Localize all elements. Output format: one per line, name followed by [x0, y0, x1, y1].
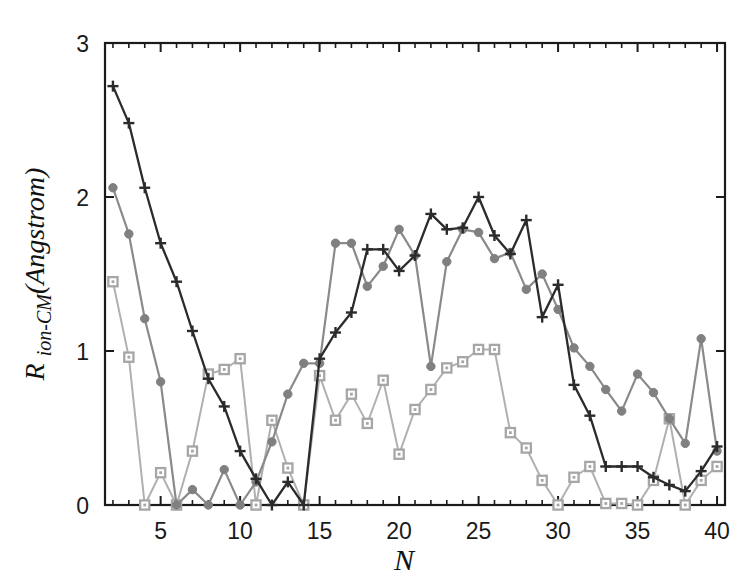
series-light-square-marker [553, 500, 562, 509]
series-mid-circle-marker [284, 390, 292, 398]
y-tick-label: 2 [76, 185, 89, 211]
series-light-square-marker [697, 476, 706, 485]
series-light-square-marker [363, 419, 372, 428]
series-light-square-marker [236, 354, 245, 363]
x-tick-label: 35 [625, 518, 651, 544]
x-tick-label: 15 [307, 518, 333, 544]
series-light-square-marker [490, 345, 499, 354]
series-mid-circle-marker [172, 501, 180, 509]
x-tick-label: 40 [704, 518, 730, 544]
series-mid-circle-marker [141, 314, 149, 322]
series-mid-circle-marker [236, 501, 244, 509]
series-light-square-marker [601, 499, 610, 508]
series-mid-circle-marker [681, 439, 689, 447]
series-mid-circle-marker [602, 385, 610, 393]
series-mid-circle-marker [427, 362, 435, 370]
scatter-line-plot: 510152025303540 0123 N R ion-CM(Angstrom… [0, 0, 752, 587]
series-light-square-marker [188, 447, 197, 456]
series-mid-circle-marker [490, 254, 498, 262]
series-light-square-marker [124, 353, 133, 362]
series-mid-circle-marker [156, 378, 164, 386]
y-tick-label: 1 [76, 339, 89, 365]
y-tick-label: 0 [76, 493, 89, 519]
series-mid-circle-marker [649, 388, 657, 396]
series-light-square-marker [538, 476, 547, 485]
series-mid-circle-marker [570, 344, 578, 352]
series-light-square-marker [140, 500, 149, 509]
series-mid-circle-marker [363, 282, 371, 290]
series-mid-circle-marker [522, 285, 530, 293]
series-light-square-marker [617, 499, 626, 508]
figure-container: 510152025303540 0123 N R ion-CM(Angstrom… [0, 0, 752, 587]
series-mid-circle-marker [586, 362, 594, 370]
series-light-square-marker [712, 462, 721, 471]
series-light-square-marker [395, 450, 404, 459]
series-light-square-marker [267, 416, 276, 425]
series-light-square-marker [283, 463, 292, 472]
x-tick-label: 25 [466, 518, 492, 544]
series-light-square-marker [251, 500, 260, 509]
x-axis-title: N [393, 543, 416, 576]
x-tick-label: 5 [154, 518, 167, 544]
series-light-square-marker [506, 428, 515, 437]
series-light-square-marker [108, 277, 117, 286]
series-light-square-marker [458, 357, 467, 366]
series-mid-circle-marker [331, 239, 339, 247]
series-light-square-marker [442, 363, 451, 372]
series-mid-circle-marker [220, 465, 228, 473]
series-mid-circle-marker [109, 184, 117, 192]
series-mid-circle-marker [395, 225, 403, 233]
series-mid-circle-marker [443, 257, 451, 265]
series-mid-circle-marker [665, 415, 673, 423]
x-axis-title-label: N [393, 543, 416, 576]
x-tick-label: 30 [545, 518, 571, 544]
series-mid-circle-marker [204, 501, 212, 509]
series-mid-circle-marker [633, 370, 641, 378]
series-light-square-marker [633, 500, 642, 509]
series-mid-circle-marker [300, 359, 308, 367]
series-light-square-marker [379, 376, 388, 385]
series-mid-circle-marker [697, 334, 705, 342]
series-mid-circle-marker [379, 262, 387, 270]
series-light-square-marker [331, 416, 340, 425]
x-tick-label: 10 [227, 518, 253, 544]
series-light-square-marker [474, 345, 483, 354]
y-tick-label: 3 [76, 31, 89, 57]
series-light-square-marker [522, 443, 531, 452]
series-light-square-marker [585, 462, 594, 471]
series-mid-circle-marker [474, 228, 482, 236]
series-mid-circle-marker [617, 407, 625, 415]
series-light-square-marker [156, 468, 165, 477]
series-mid-circle-marker [268, 438, 276, 446]
series-light-square-marker [569, 473, 578, 482]
series-light-square-marker [410, 405, 419, 414]
series-mid-circle-marker [538, 270, 546, 278]
series-mid-circle-marker [188, 485, 196, 493]
series-mid-circle-marker [347, 239, 355, 247]
series-light-square-marker [681, 500, 690, 509]
x-tick-label: 20 [386, 518, 412, 544]
series-light-square-marker [426, 385, 435, 394]
series-mid-circle-marker [125, 230, 133, 238]
series-light-square-marker [220, 365, 229, 374]
series-light-square-marker [347, 390, 356, 399]
